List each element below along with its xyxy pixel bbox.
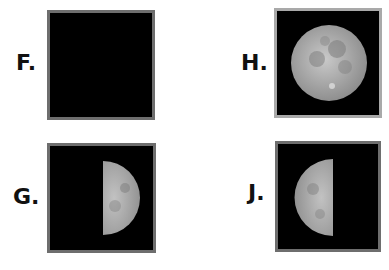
moon-image-h-full bbox=[274, 8, 382, 118]
moon-image-f-thin-crescent bbox=[47, 10, 155, 120]
moon-image-j-last-quarter bbox=[275, 141, 381, 252]
full-moon-icon bbox=[277, 11, 379, 115]
crescent-moon-icon bbox=[50, 13, 152, 117]
label-g: G. bbox=[13, 186, 39, 208]
first-quarter-moon-icon bbox=[50, 146, 153, 250]
last-quarter-moon-icon bbox=[278, 144, 378, 249]
moon-image-g-first-quarter bbox=[47, 143, 156, 253]
label-h: H. bbox=[241, 52, 268, 74]
label-f: F. bbox=[16, 52, 36, 74]
label-j: J. bbox=[248, 182, 265, 204]
